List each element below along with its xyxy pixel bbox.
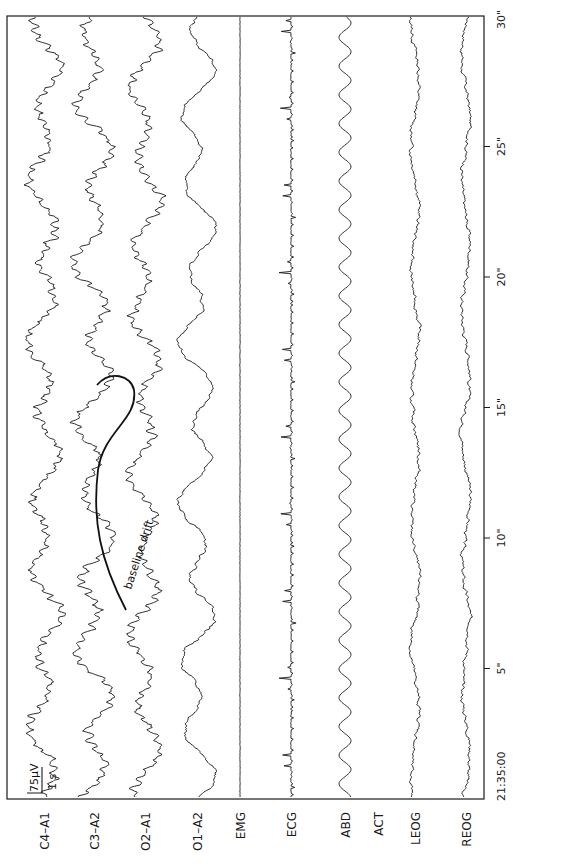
channel-label: C3–A2 (88, 812, 102, 850)
trace-ecg (279, 17, 296, 797)
time-tick-label: 10" (495, 528, 508, 547)
channel-label: ACT (372, 811, 386, 835)
trace-reog (459, 17, 473, 797)
polysomnography-chart: 75μV 1 s baseline drift C4–A1C3–A2O2–A1O… (0, 0, 564, 868)
time-tick-label: 15" (495, 398, 508, 417)
time-tick-label: 30" (495, 10, 508, 29)
channel-label: O1–A2 (191, 812, 205, 851)
channel-labels: C4–A1C3–A2O2–A1O1–A2EMGECGABDACTLEOGREOG (38, 811, 474, 851)
channel-label: ECG (285, 812, 299, 837)
trace-abd (339, 17, 351, 797)
channel-label: O2–A1 (139, 812, 153, 851)
time-axis: 21:35:005"10"15"20"25"30" (484, 10, 508, 801)
time-tick-label: 5" (495, 662, 508, 674)
channel-label: EMG (234, 812, 248, 839)
calibration-marker: 75μV 1 s (27, 763, 59, 793)
time-tick-label: 20" (495, 267, 508, 286)
trace-o1-a2 (177, 17, 217, 797)
channel-traces (24, 17, 472, 797)
calibration-time-label: 1 s (46, 774, 59, 790)
time-tick-label: 25" (495, 137, 508, 156)
channel-label: C4–A1 (38, 812, 52, 850)
channel-label: LEOG (409, 812, 423, 845)
time-tick-label: 21:35:00 (495, 752, 508, 801)
trace-c4-a1 (24, 17, 66, 797)
baseline-drift-label: baseline drift (121, 518, 156, 591)
plot-frame (7, 16, 484, 799)
trace-leog (409, 17, 421, 797)
trace-c3-a2 (70, 17, 116, 797)
channel-label: ABD (339, 812, 353, 838)
calibration-amplitude-label: 75μV (28, 763, 41, 792)
channel-label: REOG (460, 812, 474, 847)
